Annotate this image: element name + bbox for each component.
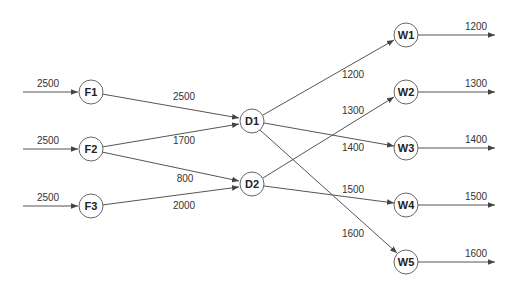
- demand-label-w3: 1400: [465, 134, 488, 145]
- node-label-w4: W4: [398, 199, 415, 211]
- node-w5: W5: [394, 250, 418, 274]
- demand-arrows: 1200 1300 1400 1500 1600: [418, 21, 495, 262]
- nodes: F1 F2 F3 D1 D2 W1 W2 W3 W4 W5: [79, 23, 418, 274]
- edge-d1-w5: [260, 130, 397, 253]
- node-label-f1: F1: [85, 86, 98, 98]
- supply-label-f1: 2500: [37, 78, 60, 89]
- node-d2: D2: [240, 172, 264, 196]
- edge-label-f1-d1: 2500: [173, 91, 196, 102]
- edge-label-d1-w3: 1400: [342, 142, 365, 153]
- supply-label-f2: 2500: [37, 135, 60, 146]
- node-label-w2: W2: [398, 86, 415, 98]
- edge-f1-d1: [102, 94, 239, 118]
- edge-d2-w2: [263, 97, 394, 178]
- network-flow-diagram: 2500 2500 2500 2500 1700 800 2000 1200 1…: [0, 0, 517, 293]
- edge-label-f2-d1: 1700: [173, 135, 196, 146]
- node-label-w3: W3: [398, 142, 415, 154]
- node-label-d2: D2: [245, 178, 259, 190]
- edge-label-f2-d2: 800: [177, 173, 194, 184]
- edge-d1-w3: [264, 123, 394, 146]
- edge-label-d1-w5: 1600: [342, 228, 365, 239]
- edge-label-d2-w2: 1300: [342, 105, 365, 116]
- edge-label-d1-w1: 1200: [342, 69, 365, 80]
- node-f1: F1: [79, 80, 103, 104]
- node-f3: F3: [79, 194, 103, 218]
- edge-label-f3-d2: 2000: [173, 200, 196, 211]
- node-w1: W1: [394, 23, 418, 47]
- distribution-warehouse-edges: 1200 1300 1400 1500 1600: [260, 40, 397, 253]
- demand-label-w5: 1600: [465, 248, 488, 259]
- edge-label-d2-w4: 1500: [342, 184, 365, 195]
- factory-distribution-edges: 2500 1700 800 2000: [102, 91, 239, 211]
- edge-f2-d1: [102, 124, 239, 147]
- demand-label-w4: 1500: [465, 191, 488, 202]
- demand-label-w1: 1200: [465, 21, 488, 32]
- node-w3: W3: [394, 136, 418, 160]
- supply-label-f3: 2500: [37, 192, 60, 203]
- node-label-w1: W1: [398, 29, 415, 41]
- edge-d1-w1: [263, 40, 394, 115]
- node-label-d1: D1: [245, 115, 259, 127]
- node-d1: D1: [240, 109, 264, 133]
- supply-arrows: 2500 2500 2500: [23, 78, 78, 206]
- node-w2: W2: [394, 80, 418, 104]
- demand-label-w2: 1300: [465, 78, 488, 89]
- edge-d2-w4: [264, 186, 394, 203]
- edge-f3-d2: [102, 187, 239, 205]
- node-label-f2: F2: [85, 143, 98, 155]
- node-f2: F2: [79, 137, 103, 161]
- edge-f2-d2: [102, 152, 239, 181]
- node-label-f3: F3: [85, 200, 98, 212]
- node-label-w5: W5: [398, 256, 415, 268]
- node-w4: W4: [394, 193, 418, 217]
